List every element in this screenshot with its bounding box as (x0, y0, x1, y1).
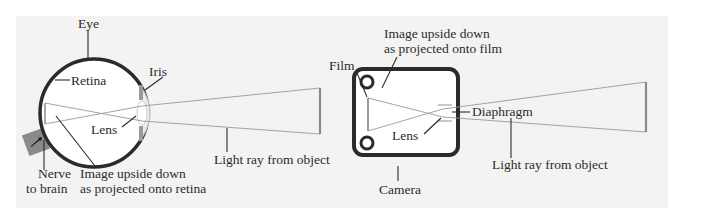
iris-label: Iris (149, 64, 167, 79)
film-image-label-line2: as projected onto film (384, 41, 502, 56)
retina-image-label-line2: as projected onto retina (80, 181, 206, 196)
camera-lens-label: Lens (392, 128, 418, 143)
iris-upper-shape (139, 85, 143, 100)
film-label: Film (329, 58, 355, 73)
eye-diagram (22, 30, 320, 170)
camera-light-ray-label: Light ray from object (492, 157, 608, 172)
nerve-label-line1: Nerve (38, 166, 71, 181)
eye-light-ray-upper (142, 88, 320, 106)
eye-light-ray-lower (142, 121, 320, 134)
film-spool-bottom-icon (361, 137, 373, 149)
iris-lower-shape (139, 126, 143, 141)
eye-lens-label: Lens (91, 122, 117, 137)
retina-label: Retina (71, 73, 106, 88)
film-image-label-line1: Image upside down (384, 26, 490, 41)
camera-light-ray-lower (443, 117, 646, 132)
eye-title: Eye (78, 16, 99, 31)
nerve-label-line2: to brain (26, 181, 68, 196)
retina-image-label-line1: Image upside down (80, 166, 186, 181)
camera-title: Camera (379, 182, 421, 197)
eye-light-ray-label: Light ray from object (214, 152, 330, 167)
diaphragm-label: Diaphragm (472, 104, 533, 119)
